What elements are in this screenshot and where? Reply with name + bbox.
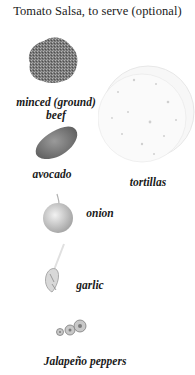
garlic-label: garlic — [70, 279, 110, 292]
tortillas-label: tortillas — [108, 176, 188, 189]
tortillas-illustration — [98, 62, 195, 172]
avocado-illustration — [32, 122, 82, 162]
jalapeno-label: Jalapeño peppers — [30, 355, 140, 368]
onion-label: onion — [80, 207, 120, 220]
avocado-label: avocado — [22, 168, 82, 181]
label-line: minced (ground) — [8, 96, 104, 109]
minced-beef-illustration — [22, 33, 82, 88]
section-heading: Tomato Salsa, to serve (optional) — [0, 4, 195, 19]
jalapeno-illustration — [52, 314, 92, 342]
onion-illustration — [40, 190, 76, 234]
label-line: beef — [8, 109, 104, 122]
minced-beef-label: minced (ground) beef — [8, 96, 104, 122]
